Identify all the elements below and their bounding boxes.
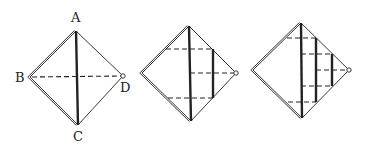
diagram-canvas: A B C D bbox=[0, 0, 368, 148]
edge-bottom-left bbox=[253, 70, 302, 118]
vertex-dot-icon bbox=[347, 68, 351, 72]
label-b: B bbox=[15, 70, 25, 85]
edge-top-right bbox=[76, 31, 123, 76]
edge-bottom-left-outer bbox=[140, 73, 190, 122]
label-c: C bbox=[73, 129, 83, 144]
panel-step-3 bbox=[251, 22, 351, 118]
edge-bottom-right bbox=[302, 70, 349, 118]
panels-group bbox=[28, 22, 351, 125]
edge-bottom-left-outer bbox=[251, 70, 301, 119]
origami-diagram: A B C D bbox=[0, 0, 368, 148]
solid-fold-line bbox=[76, 31, 78, 125]
label-d: D bbox=[120, 80, 130, 95]
edge-top-left bbox=[30, 31, 76, 77]
edge-bottom-right bbox=[78, 76, 123, 125]
panel-step-1 bbox=[28, 30, 125, 125]
edge-bottom-left-outer bbox=[28, 77, 77, 126]
panel-step-2 bbox=[140, 25, 238, 121]
edge-bottom-left bbox=[30, 77, 78, 125]
dashed-fold-line bbox=[32, 76, 121, 77]
vertex-dot-icon bbox=[234, 71, 238, 75]
edge-top-right bbox=[301, 23, 349, 70]
edge-top-left-outer bbox=[251, 22, 300, 70]
solid-fold-line bbox=[301, 23, 302, 118]
edge-top-left-outer bbox=[140, 25, 188, 73]
edge-top-left bbox=[253, 23, 301, 70]
edge-top-left-outer bbox=[28, 30, 75, 77]
vertex-dot-icon bbox=[121, 74, 125, 78]
label-a: A bbox=[70, 10, 81, 25]
edge-bottom-left bbox=[142, 73, 191, 121]
edge-top-left bbox=[142, 26, 189, 73]
